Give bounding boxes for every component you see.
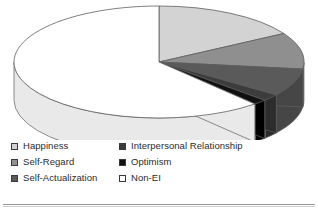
- legend-item-happiness[interactable]: Happiness: [11, 138, 121, 154]
- legend-item-self-actualization[interactable]: Self-Actualization: [11, 170, 121, 186]
- legend-item-self-regard[interactable]: Self-Regard: [11, 154, 121, 170]
- legend-swatch-non-ei: [119, 175, 126, 182]
- pie-chart-figure: Happiness Self-Regard Self-Actualization…: [0, 0, 318, 213]
- legend-item-interpersonal-relationship[interactable]: Interpersonal Relationship: [119, 138, 315, 154]
- legend-label-interpersonal-relationship: Interpersonal Relationship: [131, 141, 243, 151]
- legend-label-self-actualization: Self-Actualization: [23, 173, 97, 183]
- legend-label-optimism: Optimism: [131, 157, 172, 167]
- legend-swatch-self-actualization: [11, 175, 18, 182]
- legend-item-optimism[interactable]: Optimism: [119, 154, 315, 170]
- legend-column-right: Interpersonal Relationship Optimism Non-…: [119, 138, 315, 186]
- legend-swatch-happiness: [11, 143, 18, 150]
- pie-chart-svg: [0, 0, 318, 140]
- footer-rule: [3, 204, 315, 205]
- legend-item-non-ei[interactable]: Non-EI: [119, 170, 315, 186]
- legend-swatch-interpersonal-relationship: [119, 143, 126, 150]
- legend-label-self-regard: Self-Regard: [23, 157, 74, 167]
- legend-swatch-self-regard: [11, 159, 18, 166]
- chart-legend: Happiness Self-Regard Self-Actualization…: [0, 138, 318, 196]
- chart-plot-area: [0, 0, 318, 140]
- legend-swatch-optimism: [119, 159, 126, 166]
- legend-label-non-ei: Non-EI: [131, 173, 161, 183]
- legend-column-left: Happiness Self-Regard Self-Actualization: [11, 138, 121, 186]
- legend-label-happiness: Happiness: [23, 141, 68, 151]
- footer-rule-shadow: [3, 206, 315, 207]
- pie-top-faces: [14, 6, 304, 118]
